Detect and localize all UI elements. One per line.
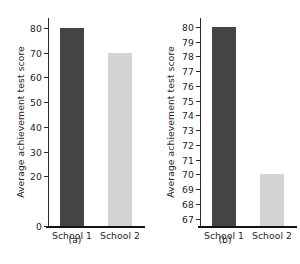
y-tick-mark	[196, 101, 200, 102]
y-tick-label: 80	[182, 21, 194, 32]
y-tick-mark	[44, 226, 48, 227]
y-tick-mark	[196, 219, 200, 220]
y-tick-label: 50	[30, 97, 42, 108]
y-tick-mark	[44, 77, 48, 78]
y-tick-mark	[44, 176, 48, 177]
chart-panel-b: Average achievement test score 676869707…	[150, 0, 300, 264]
y-tick-label: 71	[182, 154, 194, 165]
y-tick-mark	[196, 145, 200, 146]
caption-a: (a)	[0, 234, 150, 245]
y-tick-mark	[196, 174, 200, 175]
y-tick-label: 60	[30, 72, 42, 83]
y-tick-mark	[196, 56, 200, 57]
x-axis-line-a	[46, 226, 145, 228]
y-tick-label: 79	[182, 36, 194, 47]
y-tick-label: 76	[182, 80, 194, 91]
y-tick-label: 30	[30, 146, 42, 157]
y-tick-mark	[196, 189, 200, 190]
y-tick-label: 0	[36, 221, 42, 232]
y-tick-mark	[196, 160, 200, 161]
y-tick-label: 77	[182, 66, 194, 77]
bar-school-2	[108, 53, 132, 226]
y-tick-mark	[44, 127, 48, 128]
y-tick-label: 78	[182, 51, 194, 62]
y-tick-label: 68	[182, 198, 194, 209]
y-tick-label: 72	[182, 139, 194, 150]
y-tick-label: 70	[182, 169, 194, 180]
y-tick-label: 70	[30, 47, 42, 58]
y-tick-mark	[44, 102, 48, 103]
y-tick-label: 20	[30, 171, 42, 182]
y-tick-mark	[196, 42, 200, 43]
y-axis-title-a: Average achievement test score	[14, 22, 28, 222]
y-tick-mark	[196, 27, 200, 28]
bar-school-1	[60, 28, 84, 226]
caption-b: (b)	[150, 234, 300, 245]
chart-panel-a: Average achievement test score 020304050…	[0, 0, 150, 264]
y-tick-label: 73	[182, 125, 194, 136]
y-tick-mark	[196, 86, 200, 87]
bar-school-2	[260, 174, 284, 226]
y-tick-mark	[44, 28, 48, 29]
y-tick-label: 74	[182, 110, 194, 121]
y-axis-line-a	[48, 18, 49, 226]
y-tick-label: 69	[182, 184, 194, 195]
y-axis-line-b	[200, 18, 201, 226]
y-tick-label: 67	[182, 213, 194, 224]
y-tick-mark	[196, 130, 200, 131]
y-tick-mark	[44, 152, 48, 153]
y-tick-label: 40	[30, 121, 42, 132]
y-tick-label: 80	[30, 22, 42, 33]
figure-two-bar-charts: Average achievement test score 020304050…	[0, 0, 300, 264]
y-tick-mark	[196, 71, 200, 72]
y-axis-title-b: Average achievement test score	[164, 22, 178, 222]
y-tick-mark	[44, 53, 48, 54]
bar-school-1	[212, 27, 236, 226]
y-tick-mark	[196, 115, 200, 116]
x-axis-line-b	[198, 226, 297, 228]
y-tick-mark	[196, 204, 200, 205]
plot-area-a: 020304050607080 School 1School 2	[48, 18, 144, 226]
y-tick-label: 75	[182, 95, 194, 106]
plot-area-b: 6768697071727374757677787980 School 1Sch…	[200, 18, 296, 226]
